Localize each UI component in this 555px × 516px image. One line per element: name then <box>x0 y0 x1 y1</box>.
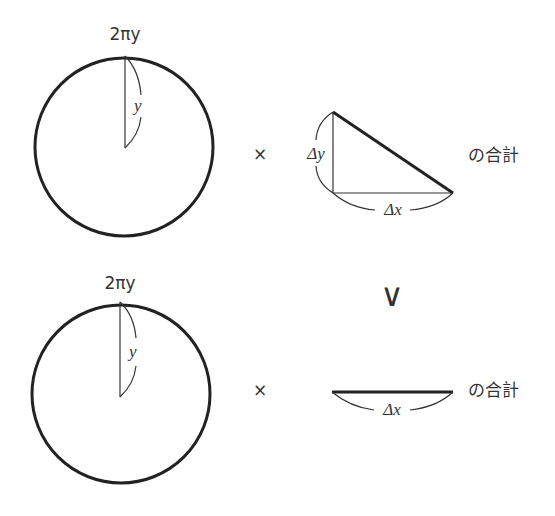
bottom-radius-label: y <box>127 342 137 361</box>
bottom-sum-label: の合計 <box>468 380 519 400</box>
dy-brace-upper <box>316 112 333 140</box>
bottom-circumference-label: 2πy <box>104 273 135 293</box>
diagram-canvas: y 2πy × Δy Δx の合計 ∨ y 2πy <box>0 0 555 516</box>
bottom-times-symbol: × <box>253 380 267 400</box>
top-triangle-group: Δy Δx <box>306 112 453 219</box>
top-sum-label: の合計 <box>468 145 519 165</box>
top-radius-label: y <box>132 96 142 115</box>
dx-brace-right <box>410 193 453 210</box>
dy-brace-lower <box>316 166 333 193</box>
bottom-dx-label: Δx <box>382 400 401 419</box>
bottom-radius-brace-lower <box>120 366 136 397</box>
top-radius-brace-lower <box>125 117 141 148</box>
bottom-dx-brace-right <box>410 392 453 410</box>
top-circumference-label: 2πy <box>109 24 140 44</box>
top-circle <box>35 58 213 236</box>
bottom-circle <box>32 305 210 483</box>
dy-label: Δy <box>306 144 325 163</box>
dx-brace-left <box>333 193 375 210</box>
top-radius-brace-upper <box>125 56 141 95</box>
bottom-dx-brace-left <box>332 392 374 410</box>
triangle-hypotenuse <box>333 112 453 193</box>
bottom-segment-group: Δx <box>332 392 453 419</box>
top-times-symbol: × <box>253 144 267 164</box>
bottom-circle-group: y 2πy <box>32 273 210 483</box>
bottom-row: y 2πy × Δx の合計 <box>32 273 519 483</box>
top-circle-group: y 2πy <box>35 24 213 236</box>
greater-than-symbol: ∨ <box>380 276 403 314</box>
top-dx-label: Δx <box>383 200 402 219</box>
top-row: y 2πy × Δy Δx の合計 <box>35 24 519 236</box>
